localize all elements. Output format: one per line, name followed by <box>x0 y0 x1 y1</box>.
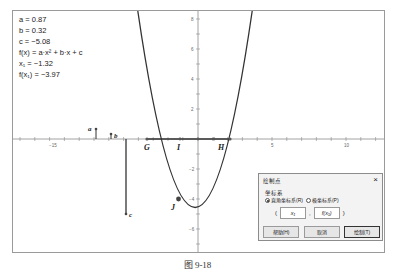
help-button[interactable]: 帮助(H) <box>263 226 299 238</box>
plot-button[interactable]: 绘制(T) <box>344 226 380 238</box>
label-slider-b: b <box>114 132 118 140</box>
slider-b-handle[interactable] <box>110 133 113 136</box>
y-tick-label: 4 <box>191 77 194 82</box>
label-h: H <box>217 143 225 152</box>
close-icon[interactable]: × <box>373 175 378 184</box>
x-tick-label: −15 <box>49 143 57 148</box>
y-tick-label: 2 <box>191 107 194 112</box>
figure-caption: 图 9-18 <box>0 258 395 271</box>
coordinate-system-options: 直角坐标系(R) 极坐标系(P) <box>265 196 339 203</box>
point-h[interactable] <box>228 137 231 140</box>
slider-a-handle[interactable] <box>95 128 98 131</box>
radio-selected-icon <box>265 198 270 203</box>
y-coordinate-input[interactable]: f(x₁) <box>314 207 340 219</box>
y-tick-label: −4 <box>189 197 195 202</box>
cancel-button[interactable]: 取消 <box>304 226 340 238</box>
label-g: G <box>144 143 150 152</box>
y-tick-label: 6 <box>191 47 194 52</box>
y-tick-label: 8 <box>191 17 194 22</box>
comma: , <box>309 210 311 216</box>
point-origin <box>197 138 200 141</box>
algebra-b[interactable]: b = 0.32 <box>19 25 83 36</box>
x-tick-label: 10 <box>344 143 350 148</box>
paren-open: ( <box>275 210 277 216</box>
x-coordinate-input[interactable]: x₁ <box>280 207 306 219</box>
algebra-x1[interactable]: x₁ = −1.32 <box>19 58 83 69</box>
coordinate-inputs: ( x₁ , f(x₁) ) <box>275 207 345 219</box>
y-tick-label: −6 <box>189 227 195 232</box>
point-g[interactable] <box>145 137 148 140</box>
dialog-buttons: 帮助(H) 取消 绘制(T) <box>263 226 380 238</box>
point-i[interactable] <box>179 138 182 141</box>
label-j: J <box>170 203 176 212</box>
parabola-curve <box>138 11 252 208</box>
dialog-title: 绘制点 <box>263 177 281 185</box>
radio-empty-icon <box>306 198 311 203</box>
slider-c-handle[interactable] <box>125 213 128 216</box>
plot-point-dialog: 绘制点 × 坐标系 直角坐标系(R) 极坐标系(P) ( x₁ , f(x₁) … <box>258 173 383 241</box>
paren-close: ) <box>343 210 345 216</box>
algebra-view: a = 0.87 b = 0.32 c = −5.08 f(x) = a·x² … <box>19 14 83 80</box>
label-i: I <box>176 143 181 152</box>
label-slider-a: a <box>88 125 92 133</box>
y-tick-label: −2 <box>189 167 195 172</box>
label-slider-c: c <box>129 211 132 219</box>
algebra-c[interactable]: c = −5.08 <box>19 36 83 47</box>
point-j[interactable] <box>176 197 181 202</box>
algebra-f[interactable]: f(x) = a·x² + b·x + c <box>19 47 83 58</box>
x-tick-label: 5 <box>271 143 274 148</box>
algebra-fx1[interactable]: f(x₁) = −3.97 <box>19 69 83 80</box>
point-on-segment <box>213 138 216 141</box>
radio-rectangular[interactable]: 直角坐标系(R) <box>265 196 303 203</box>
algebra-a[interactable]: a = 0.87 <box>19 14 83 25</box>
radio-polar[interactable]: 极坐标系(P) <box>306 196 339 203</box>
